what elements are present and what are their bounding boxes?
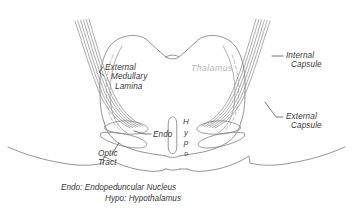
outline-bottom-left-join — [166, 169, 180, 170]
label-external-capsule-line1: External — [286, 112, 322, 121]
label-external-capsule-line2: Capsule — [286, 121, 322, 130]
outline-far-left-lobe — [8, 147, 166, 171]
label-external-medullary-lamina-line3: Lamina — [105, 82, 147, 91]
legend-line-hypo: Hypo: Hypothalamus — [61, 193, 181, 204]
outline-midline-notch-left — [159, 51, 166, 57]
outline-bottom-midline — [166, 156, 179, 158]
legend-line-endo: Endo: Endopeduncular Nucleus — [61, 182, 181, 193]
brain-section-drawing — [0, 0, 353, 211]
outline-far-right-lobe — [187, 147, 345, 171]
label-internal-capsule-line2: Capsule — [286, 60, 322, 69]
label-endo: Endo — [153, 130, 173, 139]
label-external-medullary-lamina: External Medullary Lamina — [105, 63, 147, 91]
label-hypo-char3: p — [181, 138, 191, 149]
label-internal-capsule: Internal Capsule — [286, 51, 322, 70]
label-internal-capsule-line1: Internal — [286, 51, 322, 60]
label-external-medullary-lamina-line2: Medullary — [105, 72, 147, 81]
label-optic-tract: Optic Tract — [98, 149, 118, 168]
label-hypo-char4: o — [181, 149, 191, 160]
label-hypo-char1: H — [181, 117, 191, 128]
label-hypo: H y p o — [181, 117, 191, 159]
legend: Endo: Endopeduncular Nucleus Hypo: Hypot… — [61, 182, 181, 204]
midline-lens-shape — [166, 55, 179, 59]
label-thalamus: Thalamus — [191, 64, 233, 73]
label-optic-tract-line2: Tract — [98, 158, 118, 167]
label-external-medullary-lamina-line1: External — [105, 63, 147, 72]
label-optic-tract-line1: Optic — [98, 149, 118, 158]
diagram-canvas: External Medullary Lamina Thalamus Inter… — [0, 0, 353, 211]
label-external-capsule: External Capsule — [286, 112, 322, 131]
label-hypo-char2: y — [181, 128, 191, 139]
outline-midline-notch-right — [179, 51, 186, 57]
leader-external-capsule — [265, 102, 283, 117]
